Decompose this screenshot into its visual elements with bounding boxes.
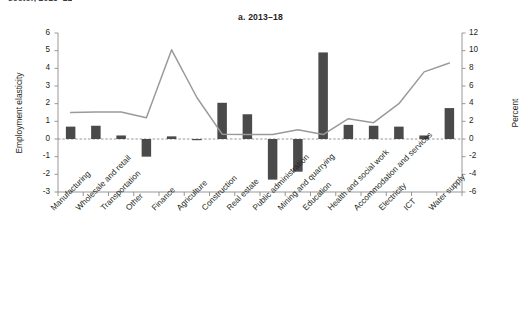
line-path [71, 50, 450, 135]
y-axis-left-tick-label: 1 [10, 116, 50, 125]
y-axis-left-tick-label: 2 [10, 98, 50, 107]
y-axis-right-tick-label: 6 [469, 81, 499, 90]
bar [167, 136, 177, 139]
bar [318, 52, 328, 139]
y-axis-right-tick-label: 10 [469, 45, 499, 54]
y-axis-right-tick-label: 12 [469, 28, 499, 37]
y-axis-right-tick-label: -4 [469, 169, 499, 178]
y-axis-left-tick-label: 4 [10, 63, 50, 72]
bar [268, 139, 278, 180]
y-axis-right-tick-label: 8 [469, 63, 499, 72]
y-axis-right-tick-label: -6 [469, 187, 499, 196]
y-axis-right-tick-label: 4 [469, 98, 499, 107]
bar [142, 139, 152, 157]
bar [116, 135, 126, 139]
y-axis-left-tick-label: -2 [10, 169, 50, 178]
bar [445, 108, 455, 139]
bar [91, 126, 101, 139]
bar [394, 127, 404, 139]
y-axis-right-tick-label: 2 [469, 116, 499, 125]
y-axis-left-tick-label: -1 [10, 151, 50, 160]
y-axis-right-tick-label: 0 [469, 134, 499, 143]
line-series [71, 50, 450, 135]
bar [344, 125, 354, 139]
chart-figure: sector, 2013–21 a. 2013–18 Employment el… [0, 0, 521, 332]
bar [192, 139, 202, 140]
y-axis-left-tick-label: 5 [10, 45, 50, 54]
plot-area [0, 0, 521, 332]
y-axis-left-tick-label: 0 [10, 134, 50, 143]
y-axis-left-tick-label: -3 [10, 187, 50, 196]
bar [369, 126, 379, 139]
y-axis-left-tick-label: 3 [10, 81, 50, 90]
y-axis-right-tick-label: -2 [469, 151, 499, 160]
bar [66, 127, 76, 139]
y-axis-left-tick-label: 6 [10, 28, 50, 37]
